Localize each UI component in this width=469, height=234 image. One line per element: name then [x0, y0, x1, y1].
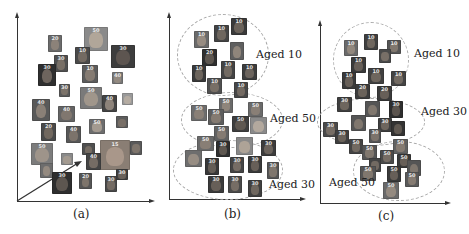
face-thumbnail: 50: [393, 139, 408, 154]
face-thumbnail: 50: [197, 136, 214, 151]
face-thumbnail: 40: [112, 72, 123, 84]
face-thumbnail: 30: [230, 157, 244, 173]
face-thumbnail: 10: [242, 64, 257, 80]
caption-b: (b): [224, 207, 241, 221]
face-thumbnail: 10: [344, 40, 358, 56]
face-thumbnail: 20: [41, 123, 56, 141]
face-thumbnail: 50: [80, 87, 102, 109]
face-thumbnail: 10: [75, 47, 90, 64]
face-thumbnail: 50: [349, 139, 363, 154]
face-thumbnail: 10: [342, 72, 356, 89]
y-axis-arrow-icon: [167, 12, 171, 18]
face-thumbnail: 30: [248, 156, 262, 173]
face-thumbnail: 50: [31, 143, 53, 165]
face-thumbnail: [61, 153, 73, 165]
face-thumbnail: 40: [102, 95, 117, 112]
y-axis-arrow-icon: [318, 20, 322, 26]
face-thumbnail: 50: [89, 119, 105, 134]
cluster-label-aged-50: Aged 50: [329, 176, 375, 189]
face-thumbnail: 10: [82, 65, 98, 83]
face-thumbnail: 10: [351, 57, 366, 73]
face-thumbnail: [351, 115, 366, 131]
y-axis: [169, 16, 170, 200]
face-thumbnail: 50: [383, 182, 399, 199]
face-thumbnail: 50: [191, 105, 207, 121]
face-thumbnail: 30: [205, 158, 219, 175]
face-thumbnail: 30: [248, 180, 262, 197]
face-thumbnail: [236, 137, 253, 155]
face-thumbnail: [250, 117, 267, 134]
face-thumbnail: 50: [405, 172, 419, 187]
face-thumbnail: 50: [248, 102, 263, 117]
depth-axis-arrow: [0, 0, 160, 234]
face-thumbnail: 10: [391, 71, 406, 86]
cluster-label-aged-30: Aged 30: [421, 105, 467, 118]
face-thumbnail: 50: [208, 109, 224, 125]
face-thumbnail: [116, 116, 128, 128]
face-thumbnail: 30: [111, 45, 135, 68]
x-axis: [320, 203, 446, 204]
cluster-label-aged-10: Aged 10: [414, 47, 460, 60]
face-thumbnail: 20: [355, 84, 370, 99]
caption-c: (c): [378, 209, 394, 223]
face-thumbnail: 10: [221, 61, 235, 79]
face-thumbnail: 30: [52, 172, 72, 194]
face-thumbnail: 30: [228, 176, 242, 193]
face-thumbnail: 20: [48, 35, 62, 52]
face-thumbnail: [379, 49, 391, 63]
face-thumbnail: 20: [79, 173, 92, 189]
face-thumbnail: 30: [216, 141, 230, 157]
face-thumbnail: 40: [86, 153, 101, 170]
face-thumbnail: 10: [192, 65, 206, 82]
face-thumbnail: 40: [32, 99, 50, 121]
face-thumbnail: [122, 93, 133, 105]
face-thumbnail: [230, 42, 244, 60]
face-thumbnail: [365, 101, 380, 117]
face-thumbnail: 50: [387, 166, 401, 182]
face-thumbnail: [130, 141, 142, 155]
face-thumbnail: 50: [232, 116, 249, 132]
face-thumbnail: 30: [261, 140, 276, 156]
face-thumbnail: 10: [207, 78, 222, 94]
face-thumbnail: 40: [66, 126, 81, 143]
face-thumbnail: 15: [100, 140, 130, 170]
face-thumbnail: 30: [59, 84, 70, 97]
panel-a: 20 50 10 30 30 30 10 40 30 50 40 40 40 5…: [0, 0, 160, 234]
face-thumbnail: [391, 121, 405, 136]
face-thumbnail: [185, 150, 202, 167]
cluster-label-aged-10: Aged 10: [256, 48, 302, 61]
face-thumbnail: 20: [377, 86, 392, 101]
face-thumbnail: 30: [54, 55, 68, 72]
face-thumbnail: 10: [368, 68, 384, 84]
face-thumbnail: 30: [389, 101, 403, 118]
face-thumbnail: 30: [335, 130, 349, 144]
panel-b: 10 10 10 20 10 10 10 10 10 50 50 50 50 5…: [150, 0, 310, 234]
face-thumbnail: 30: [116, 169, 128, 180]
caption-a: (a): [73, 207, 90, 221]
face-thumbnail: 40: [58, 106, 75, 122]
face-thumbnail: 50: [214, 126, 229, 141]
face-thumbnail: 10: [234, 82, 248, 98]
face-thumbnail: 30: [369, 129, 381, 143]
face-thumbnail: 50: [380, 150, 394, 164]
face-thumbnail: 30: [267, 162, 279, 179]
face-thumbnail: 10: [194, 31, 209, 48]
face-thumbnail: 30: [38, 64, 56, 86]
face-thumbnail: 30: [208, 176, 224, 193]
face-thumbnail: 20: [202, 49, 217, 66]
face-thumbnail: 10: [214, 25, 229, 42]
face-thumbnail: 30: [337, 97, 352, 112]
panel-c: 10 10 10 10 10 10 10 20 20 30 30 30 30 3…: [305, 0, 469, 234]
face-thumbnail: 10: [231, 18, 247, 35]
face-thumbnail: 10: [364, 34, 378, 50]
x-axis-arrow-icon: [445, 201, 451, 205]
